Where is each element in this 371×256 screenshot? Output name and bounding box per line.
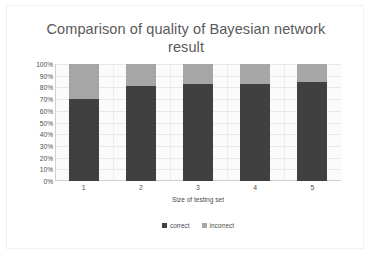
- x-axis-tick-label: 3: [183, 183, 213, 195]
- y-axis-tick-label: 10%: [9, 166, 53, 173]
- bar-segment-incorrect[interactable]: [297, 64, 327, 82]
- y-axis-tick-label: 20%: [9, 154, 53, 161]
- x-axis-tick-label: 4: [240, 183, 270, 195]
- y-axis-tick-label: 50%: [9, 119, 53, 126]
- bar-segment-correct[interactable]: [183, 84, 213, 181]
- x-axis-tick-label: 1: [69, 183, 99, 195]
- legend-item-incorrect[interactable]: incorrect: [202, 222, 235, 229]
- chart-legend: correctincorrect: [55, 222, 341, 229]
- bar-segment-incorrect[interactable]: [126, 64, 156, 86]
- bar-column[interactable]: [126, 64, 156, 181]
- plot-area-wrapper: [55, 64, 341, 181]
- bar-segment-incorrect[interactable]: [183, 64, 213, 84]
- chart-title: Comparison of quality of Bayesian networ…: [27, 20, 345, 56]
- bar-segment-correct[interactable]: [240, 84, 270, 181]
- y-axis: 100%90%80%70%60%50%40%30%20%10%0%: [7, 64, 53, 181]
- legend-label: incorrect: [210, 222, 235, 229]
- bar-column[interactable]: [297, 64, 327, 181]
- y-axis-tick-label: 60%: [9, 107, 53, 114]
- bar-column[interactable]: [240, 64, 270, 181]
- x-axis-tick-label: 2: [126, 183, 156, 195]
- legend-swatch-icon: [202, 223, 207, 228]
- bar-segment-incorrect[interactable]: [240, 64, 270, 84]
- y-axis-tick-label: 90%: [9, 72, 53, 79]
- bar-column[interactable]: [69, 64, 99, 181]
- y-axis-tick-label: 80%: [9, 84, 53, 91]
- y-axis-tick-label: 40%: [9, 131, 53, 138]
- bar-group: [55, 64, 341, 181]
- legend-item-correct[interactable]: correct: [162, 222, 190, 229]
- bar-segment-correct[interactable]: [126, 86, 156, 181]
- bar-column[interactable]: [183, 64, 213, 181]
- y-axis-tick-label: 0%: [9, 178, 53, 185]
- chart-container: Comparison of quality of Bayesian networ…: [6, 5, 364, 249]
- legend-label: correct: [170, 222, 190, 229]
- legend-swatch-icon: [162, 223, 167, 228]
- x-axis-title: Size of testing set: [55, 196, 341, 203]
- y-axis-tick-label: 30%: [9, 142, 53, 149]
- x-axis: 12345: [55, 183, 341, 195]
- bar-segment-incorrect[interactable]: [69, 64, 99, 99]
- bar-segment-correct[interactable]: [297, 82, 327, 181]
- y-axis-tick-label: 70%: [9, 96, 53, 103]
- x-axis-tick-label: 5: [297, 183, 327, 195]
- bar-segment-correct[interactable]: [69, 99, 99, 181]
- y-axis-tick-label: 100%: [9, 61, 53, 68]
